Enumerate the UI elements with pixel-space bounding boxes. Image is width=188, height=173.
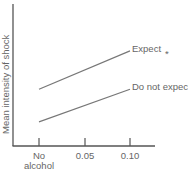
annotation-asterisk: * [165,48,169,59]
series-line-do-not-expect [39,89,130,122]
x-ticks: Noalcohol0.050.10 [24,138,139,171]
series-line-expect [39,51,130,89]
line-chart: Mean intensity of shock Noalcohol0.050.1… [0,0,188,173]
x-tick-label-2: 0.10 [121,150,140,161]
legend-label-do-not-expect: Do not expect [132,81,188,92]
y-axis-label: Mean intensity of shock [0,34,11,134]
series-group [39,51,130,122]
x-tick-label-1: 0.05 [76,150,95,161]
x-tick-label-0: Noalcohol [24,150,54,171]
inline-legend: Expect*Do not expect [132,43,188,92]
legend-label-expect: Expect [132,43,161,54]
